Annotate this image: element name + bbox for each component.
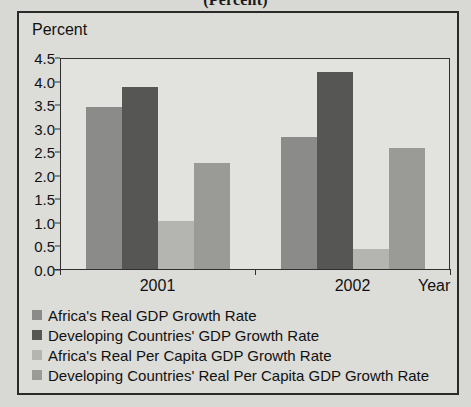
legend-item-label: Developing Countries' Real Per Capita GD… [48, 367, 429, 384]
bar [281, 137, 317, 270]
x-axis-tick-mark [450, 269, 451, 275]
x-axis-tick-mark [60, 269, 61, 275]
legend-item-label: Africa's Real Per Capita GDP Growth Rate [48, 347, 332, 364]
legend-item[interactable]: Developing Countries' GDP Growth Rate [32, 325, 452, 345]
y-axis-tick-label: 3.5 [34, 97, 55, 114]
legend-item-label: Africa's Real GDP Growth Rate [48, 307, 257, 324]
x-axis-title: Year [418, 277, 450, 295]
legend-swatch-icon [32, 350, 42, 360]
bar [158, 221, 194, 270]
y-axis-tick-label: 1.0 [34, 214, 55, 231]
legend-swatch-icon [32, 370, 42, 380]
legend-swatch-icon [32, 310, 42, 320]
bar [317, 72, 353, 270]
legend-item[interactable]: Africa's Real Per Capita GDP Growth Rate [32, 345, 452, 365]
legend-item[interactable]: Developing Countries' Real Per Capita GD… [32, 365, 452, 385]
y-axis-tick-label: 4.0 [34, 73, 55, 90]
y-axis-tick-label: 4.5 [34, 50, 55, 67]
chart-supertitle: (Percent) [0, 0, 471, 9]
legend-item[interactable]: Africa's Real GDP Growth Rate [32, 305, 452, 325]
y-axis-tick-label: 2.0 [34, 167, 55, 184]
y-axis-tick-label: 1.5 [34, 191, 55, 208]
bars-layer [60, 58, 450, 270]
bar [122, 87, 158, 270]
y-axis-tick-label: 2.5 [34, 144, 55, 161]
y-axis-tick-label: 0.0 [34, 262, 55, 279]
chart-legend: Africa's Real GDP Growth RateDeveloping … [32, 305, 452, 385]
bar [194, 163, 230, 270]
x-axis-category-label: 2001 [140, 277, 176, 295]
legend-item-label: Developing Countries' GDP Growth Rate [48, 327, 319, 344]
y-axis-tick-label: 3.0 [34, 120, 55, 137]
x-axis-tick-mark [255, 269, 256, 275]
x-axis-category-label: 2002 [335, 277, 371, 295]
bar [86, 107, 122, 270]
legend-swatch-icon [32, 330, 42, 340]
bar [353, 249, 389, 270]
y-axis-tick-label: 0.5 [34, 238, 55, 255]
bar [389, 148, 425, 270]
x-axis-line [53, 269, 451, 270]
chart-card: Percent 0.00.51.01.52.02.53.03.54.04.5 2… [17, 11, 459, 395]
